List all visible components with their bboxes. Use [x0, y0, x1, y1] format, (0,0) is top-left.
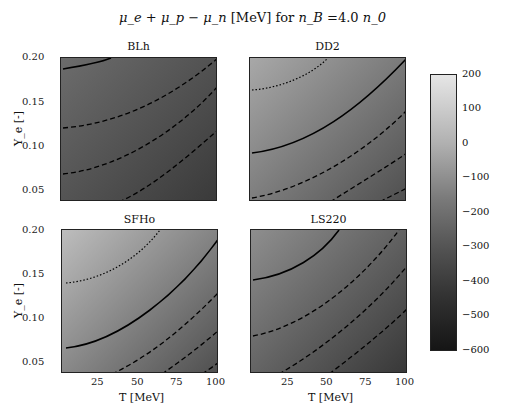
panel-title-blh: BLh	[60, 40, 217, 53]
chart-title: μ_e + μ_p − μ_n [MeV] for n_B =4.0 n_0	[0, 10, 505, 25]
xtick-sfho-75: 75	[170, 376, 183, 387]
panel-title-sfho: SFHo	[61, 213, 218, 226]
contours-dd2	[250, 58, 406, 201]
xtick-ls220-75: 75	[359, 376, 372, 387]
ytick-bot-015: 0.15	[22, 268, 44, 279]
ytick-top-010: 0.10	[22, 140, 44, 151]
cbar-tick-200: 200	[462, 68, 481, 79]
cbar-tick-m500: −500	[462, 309, 489, 320]
ytick-top-020: 0.20	[22, 51, 44, 62]
ylabel-top: Y_e [-]	[12, 109, 25, 149]
xtick-sfho-25: 25	[91, 376, 104, 387]
ytick-bot-010: 0.10	[22, 312, 44, 323]
ylabel-bottom: Y_e [-]	[12, 281, 25, 321]
panel-ls220	[250, 229, 407, 373]
title-nb: n_B	[298, 10, 322, 25]
panel-blh	[60, 57, 217, 201]
title-for: for	[275, 10, 294, 25]
contours-ls220	[251, 230, 407, 373]
cbar-tick-m200: −200	[462, 206, 489, 217]
ytick-top-005: 0.05	[22, 184, 44, 195]
ytick-top-015: 0.15	[22, 96, 44, 107]
panel-title-dd2: DD2	[249, 40, 406, 53]
title-n0: n_0	[363, 10, 386, 25]
title-expression: μ_e + μ_p − μ_n	[119, 10, 227, 25]
title-unit: [MeV]	[231, 10, 272, 25]
xtick-ls220-25: 25	[281, 376, 294, 387]
contours-sfho	[62, 230, 218, 373]
xlabel-sfho: T [MeV]	[119, 391, 164, 404]
xtick-ls220-100: 100	[395, 376, 414, 387]
panel-dd2	[249, 57, 406, 201]
ytick-bot-005: 0.05	[22, 356, 44, 367]
xtick-ls220-50: 50	[320, 376, 333, 387]
panel-sfho	[61, 229, 218, 373]
cbar-tick-m100: −100	[462, 171, 489, 182]
title-eq: =4.0	[327, 10, 359, 25]
cbar-tick-m600: −600	[462, 344, 489, 355]
colorbar	[430, 74, 457, 351]
cbar-tick-m400: −400	[462, 275, 489, 286]
cbar-tick-0: 0	[462, 137, 468, 148]
contours-blh	[61, 58, 217, 201]
xtick-sfho-50: 50	[131, 376, 144, 387]
panel-title-ls220: LS220	[250, 213, 407, 226]
xtick-sfho-100: 100	[206, 376, 225, 387]
cbar-tick-100: 100	[462, 102, 481, 113]
xlabel-ls220: T [MeV]	[308, 391, 353, 404]
ytick-bot-020: 0.20	[22, 224, 44, 235]
cbar-tick-m300: −300	[462, 240, 489, 251]
